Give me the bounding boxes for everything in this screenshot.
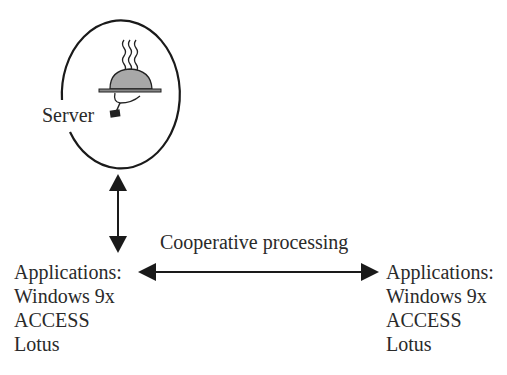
right-client-line: Lotus	[386, 332, 494, 356]
right-client-line: Windows 9x	[386, 284, 494, 308]
cooperative-processing-label: Cooperative processing	[160, 230, 348, 254]
tray-icon	[99, 89, 161, 92]
left-client-line: Applications:	[14, 260, 122, 284]
right-client-applications: Applications: Windows 9x ACCESS Lotus	[386, 260, 494, 356]
steam-icon	[123, 40, 138, 72]
left-client-line: Lotus	[14, 332, 122, 356]
right-client-line: ACCESS	[386, 308, 494, 332]
left-client-line: Windows 9x	[14, 284, 122, 308]
server-label: Server	[42, 103, 94, 127]
right-client-line: Applications:	[386, 260, 494, 284]
server-client-arrow	[109, 174, 127, 253]
left-client-line: ACCESS	[14, 308, 122, 332]
serving-tray-cloche-icon	[99, 40, 161, 118]
cooperative-processing-arrow	[138, 263, 379, 281]
left-client-applications: Applications: Windows 9x ACCESS Lotus	[14, 260, 122, 356]
hand-icon	[110, 93, 140, 118]
cloche-icon	[110, 69, 152, 89]
